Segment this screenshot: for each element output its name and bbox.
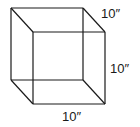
cube-diagram: 10″ 10″ 10″ <box>0 0 140 127</box>
depth-label: 10″ <box>101 7 120 20</box>
bottom-right-depth-edge <box>83 80 105 104</box>
top-left-depth-edge <box>11 8 33 32</box>
height-label: 10″ <box>110 62 129 75</box>
width-label: 10″ <box>62 110 81 123</box>
bottom-left-depth-edge <box>11 80 33 104</box>
